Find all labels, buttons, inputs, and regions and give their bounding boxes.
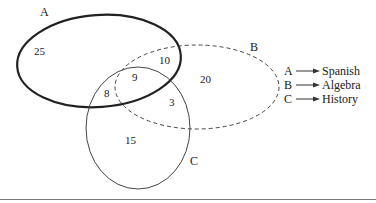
set-a-label: A [40, 5, 49, 19]
set-b-ellipse [115, 45, 279, 129]
region-a-b-only: 10 [159, 54, 171, 66]
arrowhead-icon [313, 83, 320, 88]
region-a-c-only: 8 [104, 87, 110, 99]
legend-letter-b: B [284, 78, 292, 92]
region-b-only: 20 [200, 73, 212, 85]
legend-item-c: C History [284, 92, 358, 106]
legend-text-history: History [322, 92, 358, 106]
region-b-c-only: 3 [169, 96, 175, 108]
legend-text-algebra: Algebra [322, 78, 361, 92]
legend-letter-c: C [284, 92, 292, 106]
region-c-only: 15 [125, 134, 137, 146]
venn-diagram: A B C 25 10 9 8 3 20 15 A Spanish B Alge… [0, 0, 376, 203]
legend-text-spanish: Spanish [322, 64, 360, 78]
set-b-label: B [250, 40, 258, 54]
bottom-divider [0, 199, 376, 200]
legend: A Spanish B Algebra C History [284, 64, 361, 106]
legend-letter-a: A [284, 64, 293, 78]
arrowhead-icon [313, 69, 320, 74]
arrowhead-icon [313, 97, 320, 102]
legend-item-b: B Algebra [284, 78, 361, 92]
set-c-circle [86, 67, 190, 189]
set-c-label: C [190, 154, 198, 168]
region-a-b-c: 9 [132, 71, 138, 83]
legend-item-a: A Spanish [284, 64, 360, 78]
region-a-only: 25 [34, 45, 46, 57]
